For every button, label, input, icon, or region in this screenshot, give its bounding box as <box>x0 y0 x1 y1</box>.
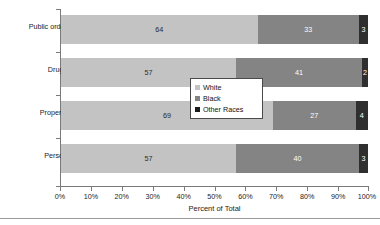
stacked-bar-chart: Public order Drugs Property Person 64 33… <box>0 0 380 225</box>
y-axis-tick <box>56 138 61 139</box>
legend-label: Black <box>203 94 221 103</box>
bar-row[interactable]: 64 33 3 <box>61 15 368 44</box>
x-axis-tick <box>245 187 246 191</box>
x-axis-title: Percent of Total <box>60 204 369 213</box>
y-axis-label-property: Property <box>0 108 67 117</box>
legend-swatch-icon <box>195 85 200 90</box>
y-axis-tick <box>56 52 61 53</box>
x-axis-tick <box>307 187 308 191</box>
footer-divider <box>0 218 380 219</box>
x-axis-tick-label: 100% <box>347 192 380 201</box>
chart-legend[interactable]: White Black Other Races <box>190 78 263 119</box>
bar-segment-other-races[interactable]: 3 <box>359 144 368 173</box>
bar-segment-other-races[interactable]: 2 <box>362 58 368 87</box>
y-axis-tick <box>56 95 61 96</box>
x-axis-tick <box>122 187 123 191</box>
bar-segment-black[interactable]: 40 <box>236 144 359 173</box>
legend-item-other-races[interactable]: Other Races <box>195 104 258 115</box>
bar-row[interactable]: 57 40 3 <box>61 144 368 173</box>
legend-label: White <box>203 83 221 92</box>
bar-segment-black[interactable]: 27 <box>273 101 356 130</box>
legend-swatch-icon <box>195 96 200 101</box>
x-axis-tick <box>276 187 277 191</box>
x-axis-tick <box>338 187 339 191</box>
bar-segment-black[interactable]: 33 <box>258 15 359 44</box>
x-axis-tick <box>153 187 154 191</box>
y-axis-tick <box>56 9 61 10</box>
bar-segment-other-races[interactable]: 3 <box>359 15 368 44</box>
x-axis-tick <box>368 187 369 191</box>
bar-segment-white[interactable]: 57 <box>61 144 236 173</box>
x-axis-tick <box>60 187 61 191</box>
x-axis-tick <box>91 187 92 191</box>
legend-label: Other Races <box>203 105 243 114</box>
bar-segment-other-races[interactable]: 4 <box>356 101 368 130</box>
legend-item-black[interactable]: Black <box>195 93 258 104</box>
bar-segment-white[interactable]: 64 <box>61 15 258 44</box>
x-axis-tick <box>184 187 185 191</box>
legend-swatch-icon <box>195 107 200 112</box>
y-axis-label-public-order: Public order <box>0 22 67 31</box>
legend-item-white[interactable]: White <box>195 82 258 93</box>
y-axis-label-person: Person <box>0 151 67 160</box>
x-axis-tick <box>215 187 216 191</box>
y-axis-label-drugs: Drugs <box>0 65 67 74</box>
